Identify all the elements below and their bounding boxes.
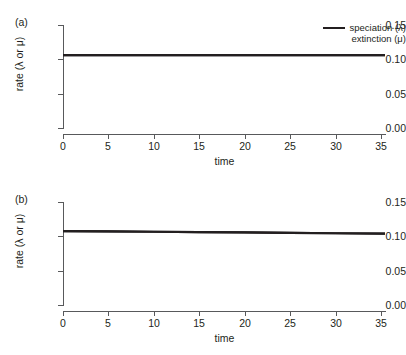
panel-a-x-axis-title: time bbox=[63, 155, 386, 167]
panel-a-x-tick-label: 0 bbox=[43, 140, 83, 152]
panel-b-x-tick-mark bbox=[245, 311, 246, 316]
panel-b-y-axis-title: rate (λ or μ) bbox=[13, 193, 25, 289]
panel-a-x-tick-label: 10 bbox=[134, 140, 174, 152]
panel-a-x-tick-mark bbox=[290, 134, 291, 139]
panel-b-x-tick-mark bbox=[381, 311, 382, 316]
panel-b-x-tick-mark bbox=[336, 311, 337, 316]
panel-b-x-tick-mark bbox=[199, 311, 200, 316]
legend-entry-speciation: speciation (λ) bbox=[294, 22, 406, 33]
panel-b-x-tick-label: 30 bbox=[316, 317, 356, 329]
legend-label-speciation: speciation (λ) bbox=[350, 22, 406, 33]
panel-a-x-tick-label: 25 bbox=[270, 140, 310, 152]
legend: speciation (λ) extinction (μ) bbox=[294, 22, 406, 44]
panel-a-x-tick-label: 30 bbox=[316, 140, 356, 152]
panel-a-x-tick-label: 5 bbox=[88, 140, 128, 152]
panel-b-x-tick-mark bbox=[154, 311, 155, 316]
panel-a-x-tick-mark bbox=[381, 134, 382, 139]
panel-a-x-axis-spine bbox=[63, 134, 386, 135]
panel-a-x-tick-label: 20 bbox=[225, 140, 265, 152]
panel-b-series-speciation bbox=[63, 231, 385, 234]
panel-a-x-tick-label: 15 bbox=[179, 140, 219, 152]
panel-a-x-tick-mark bbox=[154, 134, 155, 139]
panel-b-y-tick-mark bbox=[58, 305, 63, 306]
panel-a-y-axis-title: rate (λ or μ) bbox=[13, 16, 25, 112]
panel-b-x-tick-label: 20 bbox=[225, 317, 265, 329]
panel-b-x-tick-label: 25 bbox=[270, 317, 310, 329]
panel-b-x-tick-label: 10 bbox=[134, 317, 174, 329]
legend-label-extinction: extinction (μ) bbox=[351, 33, 406, 44]
panel-b-x-tick-label: 0 bbox=[43, 317, 83, 329]
panel-a-x-tick-mark bbox=[199, 134, 200, 139]
legend-entry-extinction: extinction (μ) bbox=[294, 33, 406, 44]
panel-b-x-tick-label: 35 bbox=[361, 317, 401, 329]
panel-a-x-tick-mark bbox=[108, 134, 109, 139]
panel-b-x-tick-label: 5 bbox=[88, 317, 128, 329]
figure-two-panel-rate-plots: (a) rate (λ or μ) 0.15 0.10 0.05 0.00 0 … bbox=[0, 0, 406, 355]
panel-b-plot-area bbox=[63, 202, 385, 305]
panel-a-x-tick-mark bbox=[336, 134, 337, 139]
panel-b-x-tick-mark bbox=[290, 311, 291, 316]
panel-b-x-tick-mark bbox=[108, 311, 109, 316]
panel-b: (b) rate (λ or μ) 0.15 0.10 0.05 0.00 0 … bbox=[0, 177, 406, 354]
panel-a-y-tick-mark bbox=[58, 128, 63, 129]
panel-a: (a) rate (λ or μ) 0.15 0.10 0.05 0.00 0 … bbox=[0, 0, 406, 177]
panel-a-x-tick-mark bbox=[245, 134, 246, 139]
panel-a-x-tick-mark bbox=[63, 134, 64, 139]
panel-b-x-axis-spine bbox=[63, 311, 386, 312]
panel-b-x-tick-mark bbox=[63, 311, 64, 316]
legend-line-swatch-icon bbox=[323, 27, 345, 29]
panel-b-series-canvas bbox=[63, 202, 385, 305]
legend-line-swatch-icon-hidden bbox=[324, 38, 346, 40]
panel-a-x-tick-label: 35 bbox=[361, 140, 401, 152]
panel-b-x-tick-label: 15 bbox=[179, 317, 219, 329]
panel-b-x-axis-title: time bbox=[63, 332, 386, 344]
